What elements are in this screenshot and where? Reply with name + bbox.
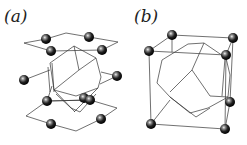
panel-b-structure — [149, 35, 233, 129]
panel-b-atoms — [144, 30, 238, 134]
crystal-structure-diagrams — [0, 0, 247, 145]
panel-a-atoms — [19, 32, 122, 129]
